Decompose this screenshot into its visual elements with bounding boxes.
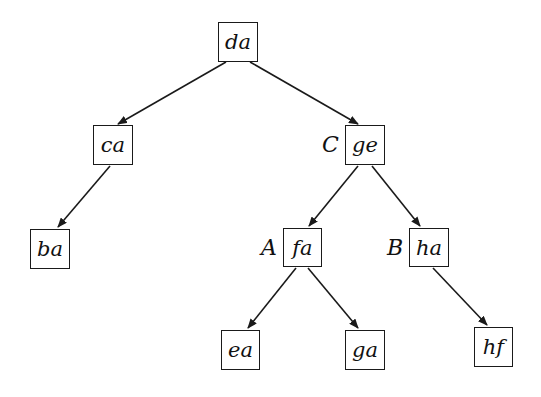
edge-ha-hf (433, 268, 487, 325)
edge-ca-ba (58, 166, 110, 227)
node-ea: ea (221, 330, 260, 370)
node-ga: ga (345, 330, 385, 370)
tag-label-a: A (261, 237, 277, 259)
edge-fa-ga (308, 268, 358, 328)
node-ha: ha (409, 228, 449, 267)
tree-diagram: da ca ge ba fa ha ea ga hf C A B (0, 0, 541, 397)
tag-label-b: B (387, 237, 403, 259)
node-ba: ba (30, 229, 70, 269)
node-label: ga (352, 338, 378, 362)
node-label: fa (292, 236, 312, 260)
node-fa: fa (283, 228, 322, 267)
node-label: da (225, 30, 251, 54)
tag-label-c: C (322, 134, 339, 156)
edge-ge-fa (309, 166, 358, 226)
node-label: ha (416, 236, 442, 260)
node-ca: ca (93, 125, 133, 165)
node-label: ea (228, 338, 253, 362)
node-label: ba (37, 237, 63, 261)
node-hf: hf (474, 327, 513, 367)
node-label: ca (101, 133, 125, 157)
edges-layer (0, 0, 541, 397)
edge-da-ge (250, 62, 358, 124)
edge-da-ca (118, 62, 226, 124)
node-label: ge (352, 133, 378, 157)
node-da: da (218, 22, 258, 62)
edge-fa-ea (248, 268, 296, 328)
node-label: hf (483, 335, 504, 359)
edge-ge-ha (372, 166, 420, 226)
node-ge: ge (345, 125, 385, 165)
